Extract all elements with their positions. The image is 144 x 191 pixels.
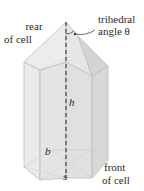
rear-label-line2: of cell (4, 33, 32, 45)
side-label: s (63, 170, 67, 182)
left-face (24, 62, 40, 180)
rear-label-line1: rear (22, 20, 46, 32)
angle-pointer-line (75, 30, 95, 35)
trihedral-label-line1: trihedral (98, 13, 135, 25)
base-width-symbol: b (45, 145, 51, 157)
front-left-face (40, 62, 66, 180)
height-symbol: h (69, 96, 75, 108)
height-label: h (69, 96, 75, 108)
trihedral-label: trihedral (98, 13, 135, 25)
front-right-face (66, 62, 92, 178)
front-label-2: of cell (102, 174, 130, 186)
trihedral-label-line2: angle θ (98, 25, 130, 37)
front-label-line2: of cell (102, 174, 130, 186)
rear-label: rear (22, 20, 46, 32)
angle-theta-label: angle θ (98, 25, 130, 37)
rear-label-2: of cell (4, 33, 32, 45)
front-label-line1: front (104, 161, 125, 173)
front-label: front (104, 161, 125, 173)
side-symbol: s (63, 170, 67, 182)
base-width-label: b (45, 145, 51, 157)
